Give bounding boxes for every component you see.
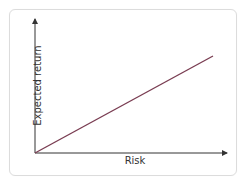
x-axis-label: Risk — [120, 155, 150, 166]
risk-return-line — [35, 56, 213, 153]
y-axis-label: Expected return — [32, 41, 43, 131]
